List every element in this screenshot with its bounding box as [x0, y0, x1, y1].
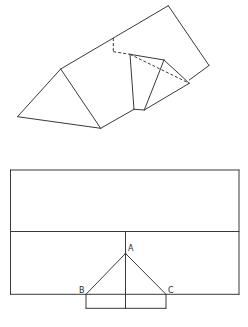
edge-line: [18, 117, 101, 129]
edge-line: [144, 60, 164, 110]
edge-line: [18, 69, 61, 117]
edge-line: [189, 66, 209, 81]
edge-line: [168, 6, 209, 66]
edge-line: [144, 83, 189, 110]
net-line: [86, 254, 126, 295]
edge-line: [164, 60, 189, 83]
hidden-edge-line: [113, 52, 130, 55]
point-label-a: A: [128, 244, 134, 253]
edge-line: [61, 69, 101, 128]
edge-line: [130, 54, 134, 109]
diagram-canvas: A B C: [0, 0, 248, 327]
edge-line: [61, 6, 169, 69]
point-label-c: C: [168, 286, 174, 295]
unfolded-net-figure: A B C: [11, 170, 240, 308]
net-line: [126, 254, 167, 295]
edge-line: [134, 109, 144, 110]
hidden-edge-line: [130, 54, 189, 83]
folded-prism-figure: [18, 6, 210, 129]
edge-line: [101, 109, 134, 128]
point-label-b: B: [79, 286, 85, 295]
vertex-a-dot: [125, 253, 127, 255]
